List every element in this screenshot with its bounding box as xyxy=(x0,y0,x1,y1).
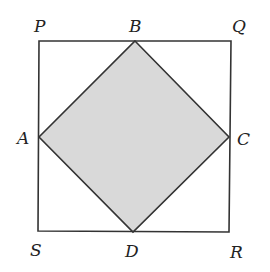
label-b: B xyxy=(128,16,142,36)
label-a: A xyxy=(15,128,29,148)
square-diagram: P B Q A C S D R xyxy=(0,0,270,272)
label-p: P xyxy=(33,16,46,36)
label-r: R xyxy=(229,242,243,262)
label-q: Q xyxy=(232,16,246,36)
label-s: S xyxy=(30,240,42,260)
label-d: D xyxy=(124,241,139,261)
shaded-inner-square-abcd xyxy=(39,41,229,232)
label-c: C xyxy=(237,129,250,149)
